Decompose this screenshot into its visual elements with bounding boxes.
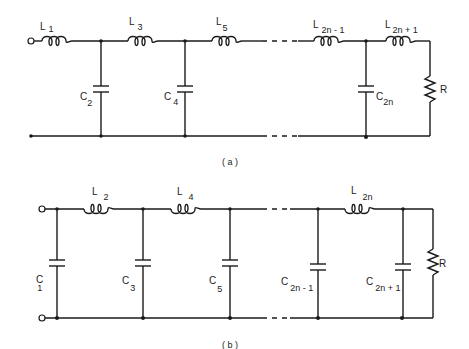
capacitor-C1 bbox=[49, 207, 65, 320]
label-L5: L5 bbox=[216, 16, 228, 33]
inductor-L5 bbox=[212, 37, 242, 46]
label-L4: L4 bbox=[177, 186, 194, 202]
label-C2n-1: C2n - 1 bbox=[281, 276, 313, 293]
resistor-R-a bbox=[425, 41, 435, 136]
inductor-L2n+1 bbox=[386, 37, 416, 46]
label-R-b: R bbox=[439, 258, 446, 269]
label-L2n: L2n bbox=[351, 185, 373, 202]
capacitor-C4 bbox=[177, 39, 193, 138]
label-R-a: R bbox=[440, 84, 447, 95]
label-L1: L1 bbox=[40, 21, 54, 34]
input-terminal-bottom-b bbox=[39, 315, 45, 321]
capacitor-C2 bbox=[93, 39, 109, 138]
label-C1: C1 bbox=[36, 274, 43, 293]
resistor-R-b bbox=[428, 209, 438, 318]
inductor-L2 bbox=[84, 205, 114, 214]
input-terminal-top bbox=[28, 38, 34, 44]
circuit-a: L1 L3 L5 L2n - 1 L2n + 1 C2 C4 C2n R ( a… bbox=[28, 16, 447, 167]
caption-a: ( a ) bbox=[222, 157, 238, 167]
label-L3: L3 bbox=[129, 16, 143, 32]
inductor-L3 bbox=[128, 37, 158, 46]
inductor-L1 bbox=[42, 37, 72, 46]
input-terminal-top-b bbox=[39, 206, 45, 212]
label-C3: C3 bbox=[122, 275, 135, 293]
label-L2n-1: L2n - 1 bbox=[313, 19, 345, 35]
label-L2: L2 bbox=[92, 186, 109, 202]
inductor-L2n-1 bbox=[314, 37, 344, 46]
label-C4: C4 bbox=[164, 91, 178, 107]
label-C2: C2 bbox=[80, 91, 92, 108]
ladder-filter-diagram: L1 L3 L5 L2n - 1 L2n + 1 C2 C4 C2n R ( a… bbox=[0, 0, 469, 349]
capacitor-C2n-1 bbox=[310, 207, 326, 320]
circuit-b: L2 L4 L2n C1 C3 C5 C2n - 1 C2n + 1 R ( b… bbox=[36, 185, 446, 349]
capacitor-C3 bbox=[135, 207, 151, 320]
label-C5: C5 bbox=[209, 275, 222, 294]
inductor-L4 bbox=[171, 205, 201, 214]
label-C2n+1: C2n + 1 bbox=[366, 276, 401, 293]
input-terminal-bottom bbox=[29, 134, 33, 138]
caption-b: ( b ) bbox=[222, 340, 238, 349]
label-C2n: C2n bbox=[376, 91, 393, 107]
label-L2n+1: L2n + 1 bbox=[385, 19, 418, 35]
capacitor-C5 bbox=[222, 207, 238, 320]
inductor-L2n bbox=[345, 205, 375, 214]
capacitor-C2n bbox=[358, 39, 374, 139]
capacitor-C2n+1 bbox=[395, 207, 411, 320]
